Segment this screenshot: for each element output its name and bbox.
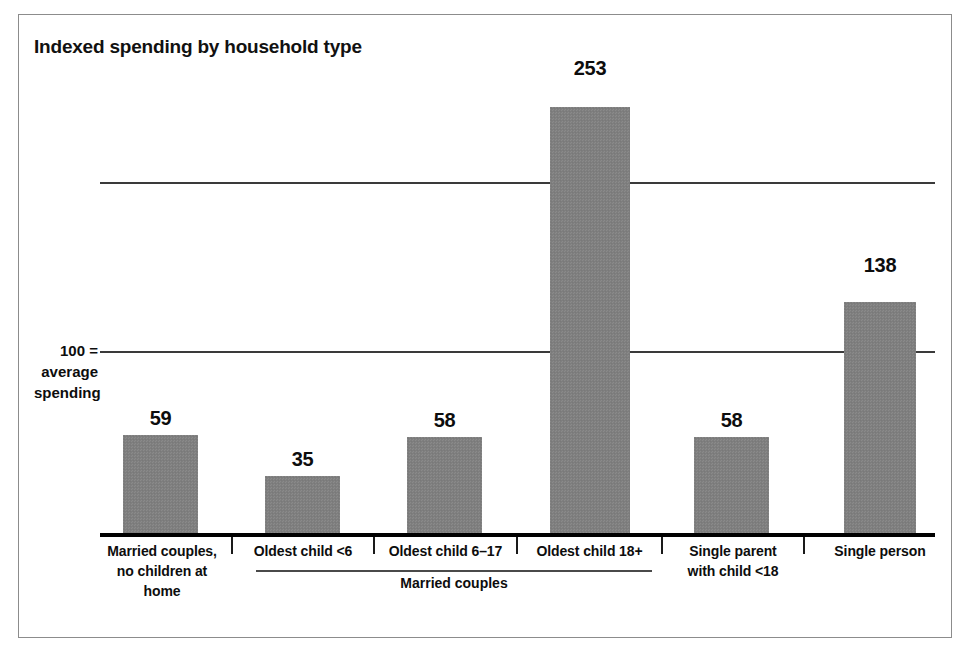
bar-value-single-parent-child-18: 58: [694, 409, 769, 432]
category-label-single-person: Single person: [812, 541, 948, 561]
bar-oldest-child-6-17[interactable]: [407, 437, 482, 535]
category-label-oldest-child-under-6: Oldest child <6: [238, 541, 368, 561]
category-label-line-1: Oldest child 18+: [522, 541, 657, 561]
y-axis-caption: 100 = average spending: [34, 340, 98, 403]
bar-value-oldest-child-under-6: 35: [265, 448, 340, 471]
category-label-married-couples-no-children: Married couples, no children at home: [98, 541, 226, 601]
category-tick-4: [661, 537, 663, 554]
category-tick-1: [231, 537, 233, 554]
group-bracket-line: [256, 570, 652, 572]
group-bracket-label: Married couples: [256, 575, 652, 591]
bar-oldest-child-under-6[interactable]: [265, 476, 340, 535]
category-tick-3: [516, 537, 518, 554]
category-label-line-1: Single person: [812, 541, 948, 561]
category-label-line-1: Single parent: [666, 541, 800, 561]
bar-chart-plot-area: 59 35 58 253 58 138 Married couples, no …: [0, 0, 966, 664]
category-label-oldest-child-6-17: Oldest child 6–17: [379, 541, 512, 561]
bar-married-couples-no-children[interactable]: [123, 435, 198, 535]
bar-value-married-couples-no-children: 59: [123, 407, 198, 430]
category-label-line-1: Oldest child 6–17: [379, 541, 512, 561]
bar-single-person[interactable]: [844, 302, 916, 535]
category-label-oldest-child-18-plus: Oldest child 18+: [522, 541, 657, 561]
bar-single-parent-child-18[interactable]: [694, 437, 769, 535]
bar-oldest-child-18-plus[interactable]: [550, 107, 630, 535]
bar-value-oldest-child-6-17: 58: [407, 409, 482, 432]
category-label-line-2: with child <18: [666, 561, 800, 581]
bar-value-oldest-child-18-plus: 253: [550, 57, 630, 80]
y-axis-caption-line-1: 100 =: [34, 340, 98, 361]
gridline-100: [100, 351, 935, 353]
category-tick-2: [373, 537, 375, 554]
bar-value-single-person: 138: [844, 254, 916, 277]
gridline-200: [100, 182, 935, 184]
category-label-line-2: no children at home: [98, 561, 226, 601]
y-axis-caption-line-3: spending: [34, 382, 98, 403]
category-label-line-1: Oldest child <6: [238, 541, 368, 561]
category-label-line-1: Married couples,: [98, 541, 226, 561]
y-axis-caption-line-2: average: [34, 361, 98, 382]
category-label-single-parent-child-18: Single parent with child <18: [666, 541, 800, 581]
category-tick-5: [803, 537, 805, 554]
